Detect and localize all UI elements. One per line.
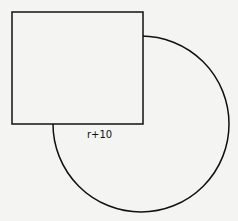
diagram-canvas: r+10 (0, 0, 238, 221)
radius-label: r+10 (87, 129, 112, 140)
square-shape (12, 12, 143, 124)
diagram-svg: r+10 (0, 0, 238, 221)
